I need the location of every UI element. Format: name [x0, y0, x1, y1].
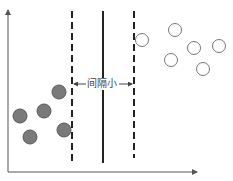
- class-b-points: [136, 24, 226, 76]
- margin-label: 间隔小: [86, 78, 118, 90]
- class-a-points: [13, 85, 71, 144]
- svm-margin-diagram: [0, 0, 233, 181]
